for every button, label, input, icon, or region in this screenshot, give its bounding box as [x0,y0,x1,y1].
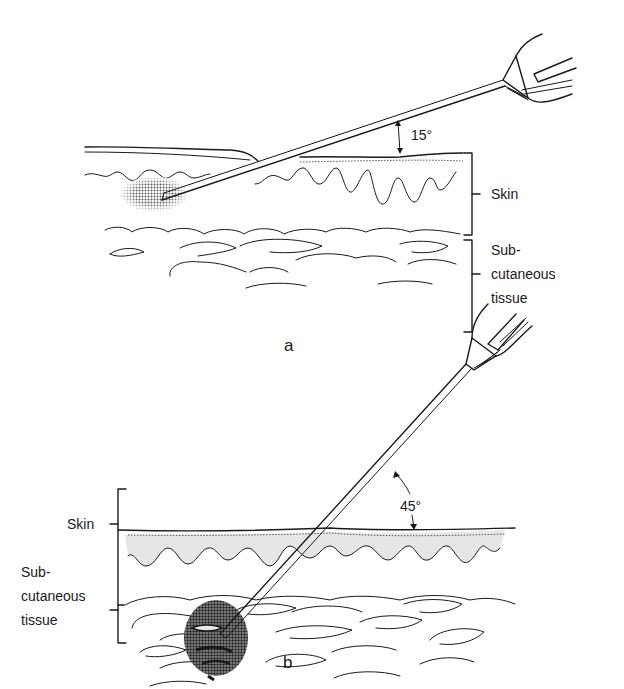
panel-label-a: a [284,336,294,355]
syringe-b [220,304,532,638]
subcutaneous-layer-b [125,596,515,687]
angle-label-b: 45° [400,498,421,514]
panel-label-b: b [283,653,292,672]
skin-label-a: Skin [491,186,518,202]
panel-b: 45° Skin Sub- cutaneous tissue b [21,304,532,686]
angle-marker-a: 15° [395,120,432,154]
subcutaneous-label-b-line1: Sub- [21,564,51,580]
subcutaneous-label-a-line2: cutaneous [491,266,556,282]
subcutaneous-layer-a [105,227,460,288]
angle-label-a: 15° [411,127,432,143]
panel-a: 15° Skin Sub- cutaneous tissue a [85,34,576,355]
subcutaneous-depot [184,600,248,680]
syringe-a [162,34,576,200]
layer-brackets-a [464,153,480,332]
skin-label-b: Skin [67,516,94,532]
subcutaneous-label-a-line1: Sub- [491,242,521,258]
subcutaneous-label-a-line3: tissue [491,290,528,306]
angle-marker-b: 45° [393,471,421,530]
injection-angle-diagram: 15° Skin Sub- cutaneous tissue a [0,0,624,689]
subcutaneous-label-b-line2: cutaneous [21,588,86,604]
subcutaneous-label-b-line3: tissue [21,612,58,628]
layer-brackets-b [110,489,126,643]
